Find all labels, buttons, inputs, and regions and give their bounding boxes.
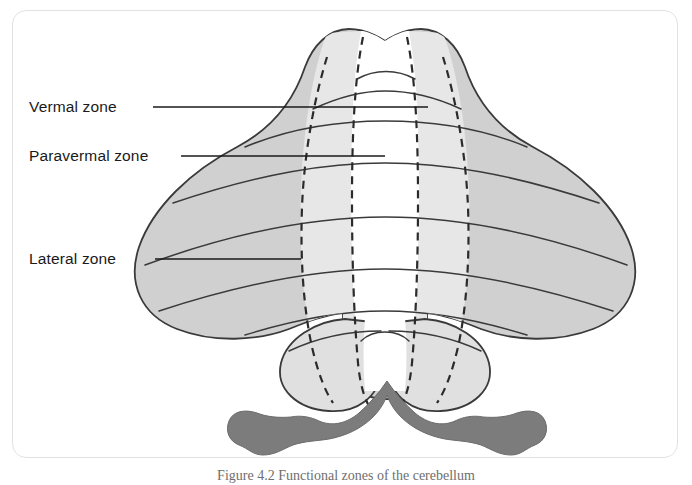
zone-labels: Vermal zone Paravermal zone Lateral zone xyxy=(29,98,148,267)
figure-caption: Figure 4.2 Functional zones of the cereb… xyxy=(0,466,692,485)
label-paravermal-zone: Paravermal zone xyxy=(29,147,148,164)
label-vermal-zone: Vermal zone xyxy=(29,98,117,115)
brainstem xyxy=(227,381,546,455)
cerebellum-diagram: Vermal zone Paravermal zone Lateral zone xyxy=(13,11,678,458)
label-lateral-zone: Lateral zone xyxy=(29,250,116,267)
figure-panel: Vermal zone Paravermal zone Lateral zone xyxy=(12,10,678,458)
